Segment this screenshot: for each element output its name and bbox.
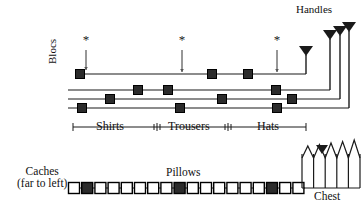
cache-box-14 xyxy=(253,183,264,194)
bloc-marker-2-2 xyxy=(288,95,297,104)
handle-triangle-1 xyxy=(323,30,337,40)
cache-box-10 xyxy=(201,183,212,194)
asterisk-marker-2: * xyxy=(274,32,281,47)
bloc-marker-1-2 xyxy=(272,86,281,95)
bloc-marker-0-0 xyxy=(76,70,85,79)
asterisk-marker-1: * xyxy=(179,32,186,47)
pillows-label: Pillows xyxy=(166,166,201,178)
cache-box-3 xyxy=(108,183,119,194)
bloc-marker-1-1 xyxy=(164,86,173,95)
bloc-marker-0-2 xyxy=(244,70,253,79)
category-label-hats: Hats xyxy=(257,120,279,133)
cache-box-7 xyxy=(161,183,172,194)
bloc-marker-0-1 xyxy=(208,70,217,79)
cache-box-15 xyxy=(267,183,278,194)
cache-box-11 xyxy=(214,183,225,194)
bloc-marker-2-1 xyxy=(218,95,227,104)
category-label-shirts: Shirts xyxy=(96,120,124,133)
bloc-marker-2-0 xyxy=(106,95,115,104)
blocs-axis-label: Blocs xyxy=(47,39,59,64)
cache-box-16 xyxy=(280,183,291,194)
cache-box-2 xyxy=(95,183,106,194)
cache-box-12 xyxy=(227,183,238,194)
bloc-marker-3-1 xyxy=(176,104,185,113)
cache-box-4 xyxy=(121,183,132,194)
category-label-trousers: Trousers xyxy=(168,120,210,133)
asterisk-marker-0: * xyxy=(83,32,90,47)
cache-box-9 xyxy=(187,183,198,194)
cache-box-1 xyxy=(82,183,93,194)
handle-triangle-0 xyxy=(299,46,313,56)
caches-label-line2: (far to left) xyxy=(17,177,67,189)
cache-box-6 xyxy=(148,183,159,194)
cache-box-0 xyxy=(69,183,80,194)
chest-label: Chest xyxy=(314,190,340,202)
chest-sawtooth xyxy=(302,140,360,158)
cache-box-8 xyxy=(174,183,185,194)
cache-box-13 xyxy=(240,183,251,194)
cache-box-5 xyxy=(135,183,146,194)
asterisk-arrowhead-2 xyxy=(275,69,279,72)
handles-label: Handles xyxy=(296,4,332,16)
bloc-marker-3-0 xyxy=(78,104,87,113)
bloc-marker-1-0 xyxy=(134,86,143,95)
figure-panel: *** Handles Blocs Shirts Trousers Hats C… xyxy=(0,0,364,209)
caches-label-line1: Caches xyxy=(26,165,59,177)
caches-label: Caches (far to left) xyxy=(17,165,67,189)
bloc-marker-3-2 xyxy=(273,104,282,113)
asterisk-arrowhead-1 xyxy=(180,69,184,72)
